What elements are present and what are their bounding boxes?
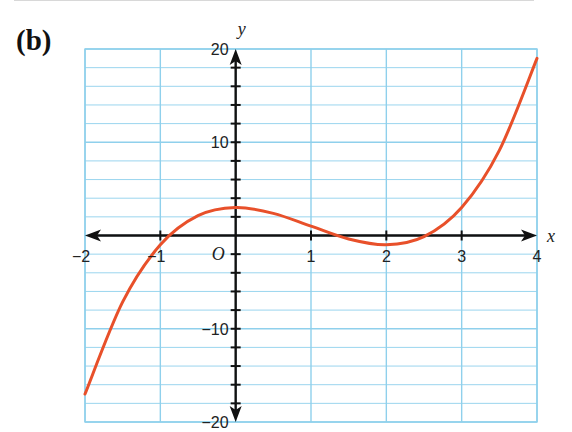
y-tick-label: 20 (211, 41, 229, 58)
x-tick-label: 2 (382, 248, 391, 265)
origin-label: O (212, 244, 225, 264)
x-tick-label: 4 (533, 248, 542, 265)
y-tick-label: 10 (211, 134, 229, 151)
y-tick-label: −20 (202, 414, 229, 431)
x-axis-label: x (546, 226, 555, 246)
labels: −2−112342010−10−20xyO (72, 19, 555, 431)
x-tick-label: −2 (72, 248, 90, 265)
x-tick-label: −1 (147, 248, 165, 265)
cubic-graph: −2−112342010−10−20xyO (0, 0, 572, 432)
y-axis-label: y (236, 19, 246, 39)
y-tick-label: −10 (202, 321, 229, 338)
x-tick-label: 1 (307, 248, 316, 265)
x-tick-label: 3 (457, 248, 466, 265)
